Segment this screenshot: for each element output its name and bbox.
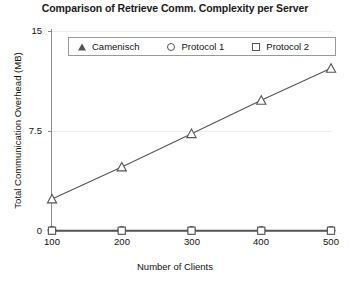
legend-item-camenisch[interactable]: Camenisch (76, 41, 140, 52)
legend-label-camenisch: Camenisch (92, 41, 140, 52)
data-point (117, 162, 126, 171)
legend-item-protocol-2[interactable]: Protocol 2 (250, 41, 309, 52)
data-point (48, 227, 55, 234)
data-point (187, 129, 196, 138)
data-point (258, 227, 265, 234)
triangle-icon (76, 41, 87, 52)
legend-label-protocol-2: Protocol 2 (266, 41, 309, 52)
chart-container: Comparison of Retrieve Comm. Complexity … (0, 0, 350, 284)
series-camenisch (47, 64, 335, 203)
chart-legend: Camenisch Protocol 1 Protocol 2 (68, 37, 336, 56)
data-point (47, 194, 56, 203)
data-point (327, 227, 334, 234)
square-icon (250, 41, 261, 52)
series-protocol-2 (48, 227, 334, 234)
legend-label-protocol-1: Protocol 1 (182, 41, 225, 52)
data-point (118, 227, 125, 234)
circle-icon (166, 41, 177, 52)
data-point (326, 64, 335, 73)
data-point (188, 227, 195, 234)
data-point (257, 96, 266, 105)
legend-item-protocol-1[interactable]: Protocol 1 (166, 41, 225, 52)
